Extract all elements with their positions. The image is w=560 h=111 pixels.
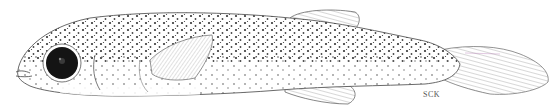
artist-signature: SCK — [423, 90, 440, 99]
fish-illustration: SCK — [0, 0, 560, 111]
fish-drawing — [0, 0, 560, 111]
